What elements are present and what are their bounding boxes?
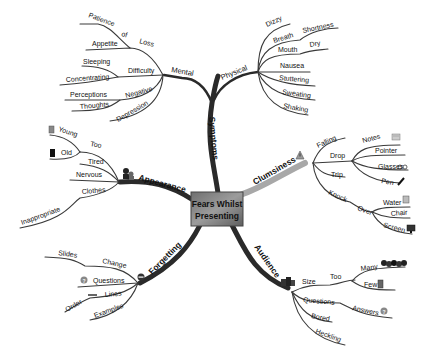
monitor-icon [407, 225, 415, 233]
label-depression[interactable]: Depression [115, 99, 150, 124]
minus-icon [138, 274, 145, 281]
notes-icon [392, 134, 400, 140]
question-icon: ? [81, 277, 88, 284]
people-icon [123, 168, 134, 180]
label-size-too[interactable]: Too [330, 273, 341, 280]
label-answers[interactable]: Answers [352, 304, 380, 317]
label-knock[interactable]: Knock [328, 189, 349, 204]
central-topic[interactable]: Fears Whilst Presenting [191, 192, 243, 226]
label-order[interactable]: Order [64, 298, 84, 313]
label-pen[interactable]: Pen [381, 177, 395, 186]
label-sleeping[interactable]: Sleeping [83, 58, 110, 66]
label-trip[interactable]: Trip [331, 171, 343, 179]
label-difficulty[interactable]: Difficulty [128, 67, 155, 75]
label-symptoms[interactable]: Symptoms [207, 116, 221, 160]
crowd-icon [381, 260, 407, 267]
warning-icon [296, 151, 304, 159]
label-appetite[interactable]: Appetite [92, 40, 118, 48]
branch-nervous [70, 180, 119, 182]
branch-drop [313, 161, 352, 163]
label-questions-audience[interactable]: Questions [303, 296, 336, 307]
label-heckling[interactable]: Heckling [314, 327, 342, 344]
svg-text:?: ? [382, 309, 385, 315]
label-notes[interactable]: Notes [361, 132, 381, 144]
young-person-icon [49, 126, 54, 133]
branch-pointer [352, 155, 405, 161]
label-few[interactable]: Few [364, 281, 378, 288]
label-pointer[interactable]: Pointer [375, 147, 398, 154]
label-drop[interactable]: Drop [330, 152, 345, 160]
question-icon-answers: ? [381, 308, 388, 315]
label-mouth[interactable]: Mouth [278, 46, 298, 53]
mind-map: Fears Whilst Presenting Symptoms Mental … [0, 0, 432, 360]
central-topic-line1: Fears Whilst [192, 199, 243, 209]
label-nausea[interactable]: Nausea [280, 62, 304, 69]
old-person-icon [50, 149, 55, 157]
central-topic-line2: Presenting [195, 211, 239, 221]
label-nervous[interactable]: Nervous [76, 171, 103, 178]
label-falling[interactable]: Falling [315, 134, 337, 150]
label-bored[interactable]: Bored [311, 312, 331, 322]
svg-text:?: ? [82, 278, 85, 284]
label-many[interactable]: Many [360, 263, 379, 273]
label-stuttering[interactable]: Stuttering [279, 74, 310, 85]
lines-icon [88, 294, 97, 296]
label-chair[interactable]: Chair [390, 209, 408, 217]
label-tired[interactable]: Tired [88, 158, 104, 165]
label-screen[interactable]: Screen [383, 221, 406, 234]
label-slides[interactable]: Slides [58, 249, 78, 259]
water-glass-icon [403, 196, 409, 203]
label-too-appearance[interactable]: Too [90, 140, 102, 149]
label-lines[interactable]: Lines [104, 290, 122, 298]
pen-icon [398, 178, 404, 185]
label-clothes[interactable]: Clothes [81, 186, 106, 195]
label-size[interactable]: Size [302, 278, 316, 285]
label-dry[interactable]: Dry [309, 39, 322, 49]
label-perceptions[interactable]: Perceptions [70, 91, 107, 99]
label-breath[interactable]: Breath [272, 31, 294, 44]
label-negative[interactable]: Negative [124, 85, 153, 100]
label-inappropriate[interactable]: Inappropriate [20, 205, 62, 227]
label-of: of [121, 30, 129, 38]
label-appearance[interactable]: Appearance [137, 172, 187, 194]
label-old[interactable]: Old [61, 149, 72, 156]
label-over[interactable]: Over [357, 204, 374, 216]
audience-group-icon [281, 277, 295, 286]
label-loss[interactable]: Loss [139, 37, 156, 48]
label-questions-forgetting[interactable]: Questions [93, 277, 125, 285]
label-shortness[interactable]: Shortness [302, 20, 335, 34]
single-person-icon [378, 280, 383, 288]
label-examples[interactable]: Examples [93, 302, 125, 320]
branch-mental [164, 75, 212, 103]
label-water[interactable]: Water [383, 199, 402, 206]
